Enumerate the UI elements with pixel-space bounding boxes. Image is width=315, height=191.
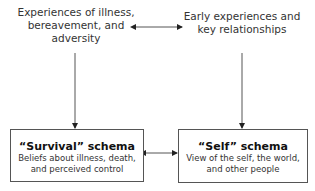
node-early-experiences: Early experiences and key relationships (176, 10, 308, 36)
node-line: Early experiences and (176, 10, 308, 23)
node-line: key relationships (176, 23, 308, 36)
self-schema-title: “Self” schema (179, 140, 307, 153)
self-schema-box: “Self” schema View of the self, the worl… (178, 129, 308, 183)
survival-schema-desc-line: Beliefs about illness, death, (11, 153, 143, 164)
survival-schema-box: “Survival” schema Beliefs about illness,… (10, 129, 144, 182)
node-line: bereavement, and (0, 19, 152, 32)
node-line: Experiences of illness, (0, 6, 152, 19)
node-illness-experiences: Experiences of illness, bereavement, and… (0, 6, 152, 45)
survival-schema-desc-line: and perceived control (11, 164, 143, 175)
node-line: adversity (0, 32, 152, 45)
self-schema-desc-line: and other people (179, 164, 307, 175)
survival-schema-title: “Survival” schema (11, 140, 143, 153)
self-schema-desc-line: View of the self, the world, (179, 153, 307, 164)
